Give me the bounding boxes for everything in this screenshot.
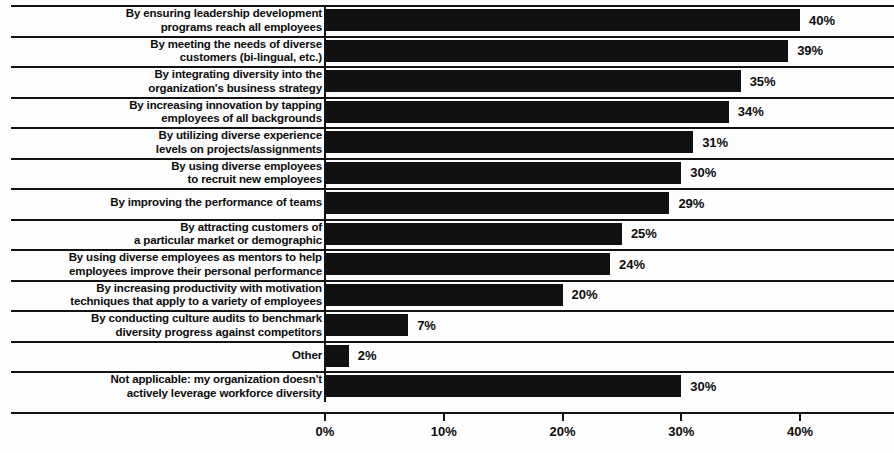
chart-row: By attracting customers of a particular … xyxy=(0,219,894,250)
category-label: By meeting the needs of diverse customer… xyxy=(22,37,322,64)
chart-row: Not applicable: my organization doesn't … xyxy=(0,371,894,402)
bar-value-label: 39% xyxy=(797,43,823,58)
category-label: Other xyxy=(22,349,322,363)
x-axis-tick-label: 20% xyxy=(549,424,575,439)
bar-value-label: 40% xyxy=(809,13,835,28)
bar xyxy=(325,375,681,397)
bar-group: 34% xyxy=(325,101,764,123)
category-label: By integrating diversity into the organi… xyxy=(22,68,322,95)
x-axis-tick xyxy=(562,414,564,421)
bar xyxy=(325,101,729,123)
bar-group: 25% xyxy=(325,223,657,245)
bar-value-label: 30% xyxy=(690,379,716,394)
bar xyxy=(325,223,622,245)
bar-value-label: 20% xyxy=(572,287,598,302)
chart-row: By ensuring leadership development progr… xyxy=(0,5,894,36)
bar-value-label: 2% xyxy=(358,348,377,363)
chart-row: Other2% xyxy=(0,341,894,372)
category-label: By using diverse employees to recruit ne… xyxy=(22,159,322,186)
chart-plot-area: By ensuring leadership development progr… xyxy=(0,5,894,402)
bar-group: 30% xyxy=(325,375,716,397)
category-label: By attracting customers of a particular … xyxy=(22,220,322,247)
bar-group: 31% xyxy=(325,131,728,153)
bar xyxy=(325,40,788,62)
bar-group: 29% xyxy=(325,192,704,214)
x-axis-tick xyxy=(324,414,326,421)
bar-group: 2% xyxy=(325,345,377,367)
category-label: By improving the performance of teams xyxy=(22,197,322,211)
bar xyxy=(325,192,669,214)
bar-group: 35% xyxy=(325,70,776,92)
x-axis-tick xyxy=(443,414,445,421)
bar-group: 39% xyxy=(325,40,823,62)
chart-row: By improving the performance of teams29% xyxy=(0,188,894,219)
value-axis-line xyxy=(11,412,894,414)
bar xyxy=(325,253,610,275)
bar-group: 40% xyxy=(325,9,835,31)
category-label: Not applicable: my organization doesn't … xyxy=(22,373,322,400)
bar-value-label: 34% xyxy=(738,104,764,119)
bar-group: 30% xyxy=(325,162,716,184)
bar-group: 24% xyxy=(325,253,645,275)
bar-group: 7% xyxy=(325,314,436,336)
chart-row: By utilizing diverse experience levels o… xyxy=(0,127,894,158)
bar-value-label: 25% xyxy=(631,226,657,241)
chart-row: By meeting the needs of diverse customer… xyxy=(0,36,894,67)
bar-value-label: 29% xyxy=(678,196,704,211)
bar-group: 20% xyxy=(325,284,598,306)
bar xyxy=(325,162,681,184)
chart-row: By increasing innovation by tapping empl… xyxy=(0,97,894,128)
category-label: By conducting culture audits to benchmar… xyxy=(22,312,322,339)
bar-value-label: 35% xyxy=(750,74,776,89)
chart-row: By using diverse employees as mentors to… xyxy=(0,249,894,280)
bar xyxy=(325,9,800,31)
bar xyxy=(325,345,349,367)
bar xyxy=(325,70,741,92)
x-axis-tick xyxy=(680,414,682,421)
bar xyxy=(325,314,408,336)
bar-value-label: 30% xyxy=(690,165,716,180)
x-axis-tick xyxy=(799,414,801,421)
bar xyxy=(325,131,693,153)
bar xyxy=(325,284,563,306)
bar-value-label: 31% xyxy=(702,135,728,150)
category-label: By increasing productivity with motivati… xyxy=(22,281,322,308)
category-axis-line xyxy=(324,5,326,402)
category-label: By utilizing diverse experience levels o… xyxy=(22,129,322,156)
chart-row: By integrating diversity into the organi… xyxy=(0,66,894,97)
horizontal-bar-chart: By ensuring leadership development progr… xyxy=(0,0,894,453)
chart-row: By conducting culture audits to benchmar… xyxy=(0,310,894,341)
bar-value-label: 7% xyxy=(417,318,436,333)
category-label: By ensuring leadership development progr… xyxy=(22,7,322,34)
x-axis-tick-label: 0% xyxy=(316,424,335,439)
chart-row: By using diverse employees to recruit ne… xyxy=(0,158,894,189)
category-label: By using diverse employees as mentors to… xyxy=(22,251,322,278)
chart-row: By increasing productivity with motivati… xyxy=(0,280,894,311)
x-axis-tick-label: 30% xyxy=(668,424,694,439)
category-label: By increasing innovation by tapping empl… xyxy=(22,98,322,125)
bar-value-label: 24% xyxy=(619,257,645,272)
x-axis-tick-label: 40% xyxy=(787,424,813,439)
x-axis-tick-label: 10% xyxy=(431,424,457,439)
